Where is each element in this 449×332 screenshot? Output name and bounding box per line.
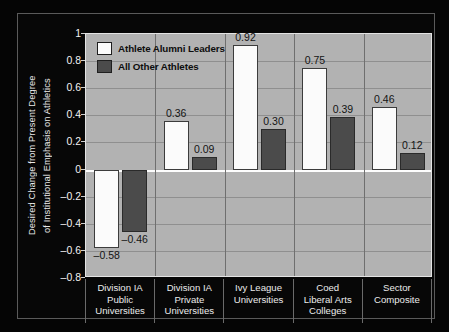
x-category-label-2: Division IAPrivateUniversities (154, 279, 223, 323)
bar-value-label: 0.30 (250, 116, 297, 127)
x-category-label-line: Sector (363, 282, 431, 294)
chart-figure: Desired Change from Present Degree of In… (0, 0, 449, 332)
x-category-label-5: SectorComposite (362, 279, 432, 323)
group-separator (364, 34, 365, 276)
x-category-label-line: Ivy League (224, 282, 292, 294)
bar-value-label: 0.39 (319, 104, 366, 115)
bar-value-label: 0.92 (222, 32, 269, 43)
y-axis-ticks: 10.80.60.40.20–0.2–0.4–0.6–0.8 (52, 0, 81, 332)
bar-athlete-alumni-leaders (233, 45, 258, 170)
x-category-label-4: CoedLiberal ArtsColleges (293, 279, 362, 323)
bar-value-label: 0.12 (389, 140, 436, 151)
bar-value-label: –0.46 (111, 234, 158, 245)
legend-label-series-1: Athlete Alumni Leaders (118, 43, 225, 54)
y-tick-label: 0.4 (53, 109, 81, 119)
bar-value-label: –0.58 (83, 250, 130, 261)
y-tick-mark (81, 114, 85, 115)
y-tick-mark (81, 87, 85, 88)
y-tick-mark (81, 277, 85, 278)
y-tick-mark (81, 196, 85, 197)
y-tick-label: 0 (53, 164, 81, 174)
x-category-label-line: Universities (86, 305, 154, 317)
y-tick-mark (81, 223, 85, 224)
bar-athlete-alumni-leaders (372, 107, 397, 169)
x-category-label-line: Liberal Arts (294, 294, 362, 306)
y-tick-label: 1 (53, 28, 81, 38)
group-separator (294, 34, 295, 276)
bar-all-other-athletes (261, 129, 286, 170)
x-category-label-line: Universities (224, 294, 292, 306)
x-category-label-line: Universities (155, 305, 223, 317)
y-tick-mark (81, 250, 85, 251)
bar-value-label: 0.75 (291, 55, 338, 66)
bar-all-other-athletes (330, 117, 355, 170)
y-tick-mark (81, 169, 85, 170)
bar-value-label: 0.46 (361, 94, 408, 105)
gridline (86, 88, 431, 89)
x-category-label-line: Private (155, 294, 223, 306)
x-category-label-line: Composite (363, 294, 431, 306)
y-tick-mark (81, 60, 85, 61)
x-category-label-line: Division IA (86, 282, 154, 294)
y-tick-label: 0.6 (53, 82, 81, 92)
legend-item-athlete-alumni-leaders: Athlete Alumni Leaders (97, 41, 225, 56)
x-axis-labels: Division IAPublicUniversitiesDivision IA… (85, 279, 432, 323)
chart-legend: Athlete Alumni Leaders All Other Athlete… (97, 41, 225, 74)
bar-athlete-alumni-leaders (302, 68, 327, 170)
y-tick-label: –0.6 (53, 245, 81, 255)
y-tick-label: –0.2 (53, 191, 81, 201)
x-category-label-line: Coed (294, 282, 362, 294)
x-category-label-3: Ivy LeagueUniversities (223, 279, 292, 323)
y-tick-mark (81, 141, 85, 142)
y-tick-label: –0.4 (53, 218, 81, 228)
y-tick-label: 0.2 (53, 136, 81, 146)
x-category-label-line: Colleges (294, 305, 362, 317)
y-tick-mark (81, 33, 85, 34)
bar-all-other-athletes (400, 153, 425, 169)
x-category-label-line: Public (86, 294, 154, 306)
x-category-label-1: Division IAPublicUniversities (85, 279, 154, 323)
legend-swatch-icon-light (97, 42, 112, 55)
bar-all-other-athletes (192, 157, 217, 169)
bar-value-label: 0.36 (153, 108, 200, 119)
gridline (86, 251, 431, 252)
bar-all-other-athletes (122, 170, 147, 232)
bar-value-label: 0.09 (181, 144, 228, 155)
legend-swatch-icon-dark (97, 60, 112, 73)
y-tick-label: 0.8 (53, 55, 81, 65)
legend-item-all-other-athletes: All Other Athletes (97, 59, 225, 74)
y-axis-label-line-1: Desired Change from Present Degree (24, 33, 40, 278)
legend-label-series-2: All Other Athletes (118, 61, 199, 72)
plot-area: –0.58–0.460.360.090.920.300.750.390.460.… (85, 33, 432, 277)
y-tick-label: –0.8 (53, 272, 81, 282)
x-category-label-line: Division IA (155, 282, 223, 294)
